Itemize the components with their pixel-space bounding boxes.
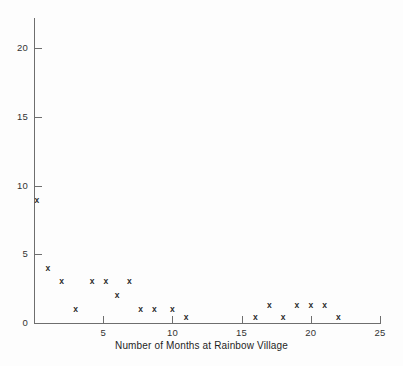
data-point-marker: x bbox=[43, 263, 52, 274]
x-tick-mark bbox=[311, 316, 312, 323]
y-tick-label: 10 bbox=[2, 180, 28, 191]
y-tick-mark bbox=[35, 186, 42, 187]
x-tick-label: 25 bbox=[368, 327, 392, 338]
data-point-marker: x bbox=[168, 304, 177, 315]
x-tick-label: 15 bbox=[230, 327, 254, 338]
x-tick-mark bbox=[242, 316, 243, 323]
scatter-plot: 05101520 510152025 xxxxxxxxxxxxxxxxxxx N… bbox=[0, 0, 403, 366]
data-point-marker: x bbox=[88, 276, 97, 287]
data-point-marker: x bbox=[279, 312, 288, 323]
y-tick-mark bbox=[35, 117, 42, 118]
x-tick-label: 20 bbox=[299, 327, 323, 338]
y-tick-mark bbox=[35, 254, 42, 255]
y-tick-label: 20 bbox=[2, 42, 28, 53]
y-tick-label: 0 bbox=[2, 317, 28, 328]
chart-page: 05101520 510152025 xxxxxxxxxxxxxxxxxxx N… bbox=[0, 0, 403, 366]
data-point-marker: x bbox=[71, 304, 80, 315]
x-tick-label: 5 bbox=[91, 327, 115, 338]
y-tick-label: 15 bbox=[2, 111, 28, 122]
x-tick-mark bbox=[103, 316, 104, 323]
data-point-marker: x bbox=[182, 312, 191, 323]
x-tick-label: 10 bbox=[160, 327, 184, 338]
data-point-marker: x bbox=[320, 300, 329, 311]
data-point-marker: x bbox=[101, 276, 110, 287]
x-axis-title: Number of Months at Rainbow Village bbox=[0, 340, 403, 351]
data-point-marker: x bbox=[150, 304, 159, 315]
data-point-marker: x bbox=[334, 312, 343, 323]
data-point-marker: x bbox=[306, 300, 315, 311]
data-point-marker: x bbox=[57, 276, 66, 287]
data-point-marker: x bbox=[251, 312, 260, 323]
data-point-marker: x bbox=[292, 300, 301, 311]
x-axis-line bbox=[34, 323, 381, 324]
data-point-marker: x bbox=[136, 304, 145, 315]
y-tick-mark bbox=[35, 48, 42, 49]
y-axis-line bbox=[34, 18, 35, 324]
x-tick-mark bbox=[172, 316, 173, 323]
y-tick-label: 5 bbox=[2, 248, 28, 259]
data-point-marker: x bbox=[113, 290, 122, 301]
data-point-marker: x bbox=[32, 195, 41, 206]
data-point-marker: x bbox=[265, 300, 274, 311]
data-point-marker: x bbox=[125, 276, 134, 287]
x-tick-mark bbox=[380, 316, 381, 323]
